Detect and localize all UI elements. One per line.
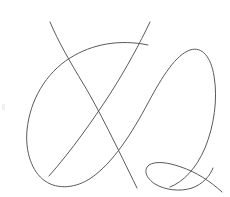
line-drawing-svg [0,0,230,197]
sketch-canvas [0,0,230,197]
large-ovoid-loop-path [27,43,216,187]
edge-speck-artifact [2,104,5,110]
tail-loop-path [146,163,222,192]
